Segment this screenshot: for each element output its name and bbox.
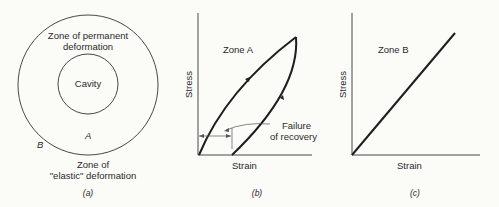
caption-a: (a) [78, 188, 98, 199]
failure-label-1: Failure [282, 120, 311, 131]
dim-arrow-left-icon [199, 134, 204, 138]
panel-c-y-label: Stress [337, 65, 348, 105]
panel-b-y-label: Stress [183, 65, 194, 105]
elastic-zone-label-1: Zone of [38, 159, 148, 170]
panel-c-x-label: Strain [397, 160, 422, 171]
zone-b-marker: B [37, 139, 43, 150]
caption-b: (b) [247, 188, 267, 199]
leader-line [226, 124, 270, 130]
zone-b-label: Zone B [378, 44, 409, 55]
dim-arrow-right-icon [226, 134, 231, 138]
cavity-label: Cavity [68, 78, 108, 89]
failure-label-2: of recovery [270, 131, 317, 142]
figure: Zone of permanent deformation Cavity A B… [0, 0, 499, 207]
zone-a-label: Zone A [223, 44, 253, 55]
leader-arrow-icon [224, 128, 229, 132]
outer-zone-label-1: Zone of permanent [28, 30, 148, 41]
zone-a-marker: A [85, 130, 91, 141]
zone-a-text: Zone A [223, 44, 253, 55]
outer-zone-label-2: deformation [28, 41, 148, 52]
panel-b-x-label: Strain [232, 160, 257, 171]
caption-c: (c) [405, 188, 425, 199]
elastic-zone-label-2: "elastic" deformation [28, 170, 158, 181]
